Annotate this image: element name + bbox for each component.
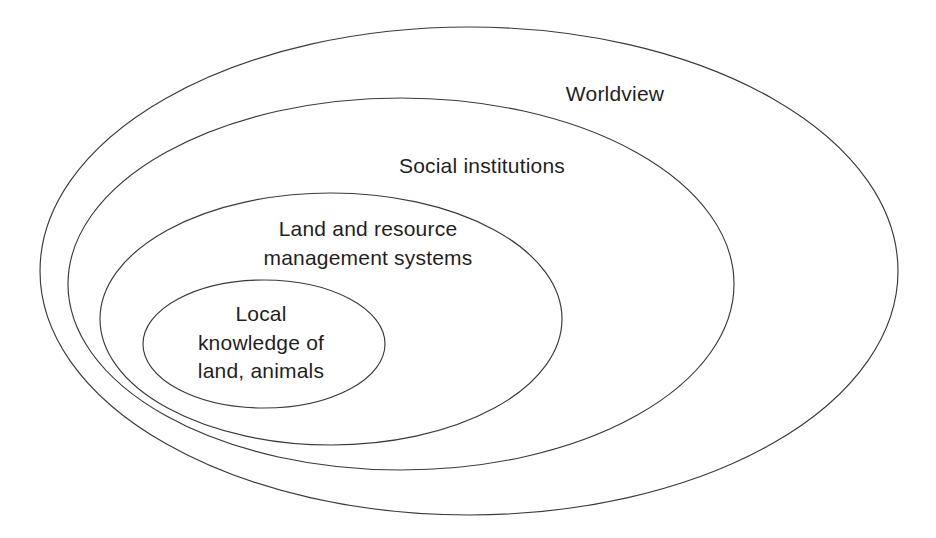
nested-ellipse-diagram: Worldview Social institutions Land and r… xyxy=(0,0,936,538)
local-knowledge-label: Local knowledge of land, animals xyxy=(198,300,324,386)
worldview-label: Worldview xyxy=(566,80,664,109)
land-resource-management-label: Land and resource management systems xyxy=(263,215,472,272)
social-institutions-label: Social institutions xyxy=(399,152,565,181)
